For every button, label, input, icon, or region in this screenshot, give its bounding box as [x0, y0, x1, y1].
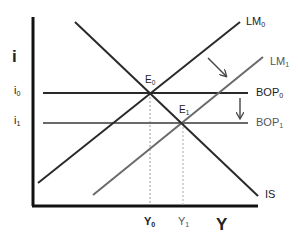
y0-tick-label: Y0: [144, 216, 155, 229]
lm1-label: LM1: [270, 56, 289, 69]
lm1-curve: [93, 57, 263, 195]
bop1-label: BOP1: [256, 117, 283, 130]
lm-shift-arrow-icon: [208, 58, 226, 76]
i1-tick-label: i1: [14, 115, 20, 128]
lm0-label: LM0: [246, 16, 265, 29]
e1-label: E1: [179, 105, 189, 116]
bop0-label: BOP0: [256, 87, 283, 100]
is-label: IS: [265, 189, 275, 200]
is-curve: [75, 22, 258, 196]
y-axis-label: i: [12, 48, 17, 65]
i0-tick-label: i0: [14, 85, 20, 98]
y1-tick-label: Y1: [178, 216, 189, 229]
e0-label: E0: [145, 75, 155, 86]
x-axis-label: Y: [216, 216, 227, 233]
is-lm-bop-diagram: [0, 0, 298, 238]
